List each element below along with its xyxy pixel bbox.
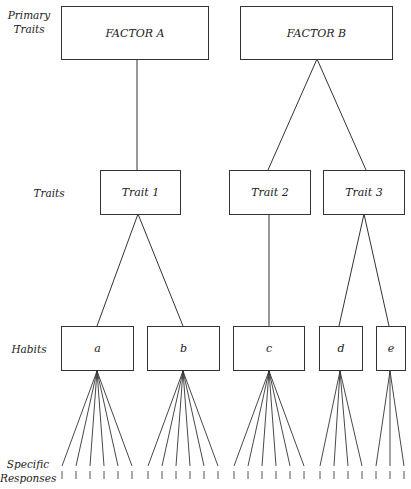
habit-c-box: c xyxy=(233,326,305,371)
hierarchy-connectors xyxy=(0,0,411,489)
factor-a-box: FACTOR A xyxy=(61,6,209,60)
level-label-line: Specific xyxy=(0,457,56,471)
level-label-primary-traits: Primary Traits xyxy=(0,8,58,36)
habit-b-box: b xyxy=(147,326,220,371)
habit-e-box: e xyxy=(376,326,406,371)
level-label-specific-responses: Specific Responses xyxy=(0,457,56,485)
trait-2-box: Trait 2 xyxy=(229,170,311,215)
factor-b-box: FACTOR B xyxy=(240,6,393,60)
trait-3-box: Trait 3 xyxy=(323,170,405,215)
level-label-line: Primary xyxy=(0,8,58,22)
habit-d-box: d xyxy=(319,326,363,371)
response-connector xyxy=(340,371,348,466)
level-label-line: Responses xyxy=(0,471,56,485)
response-connector xyxy=(376,371,390,466)
habit-a-box: a xyxy=(61,326,134,371)
response-connector xyxy=(390,371,404,466)
level-label-line: Traits xyxy=(0,22,58,36)
level-label-traits: Traits xyxy=(20,186,78,200)
response-connector xyxy=(340,371,362,466)
trait-1-box: Trait 1 xyxy=(100,170,181,215)
level-label-habits: Habits xyxy=(0,342,58,356)
